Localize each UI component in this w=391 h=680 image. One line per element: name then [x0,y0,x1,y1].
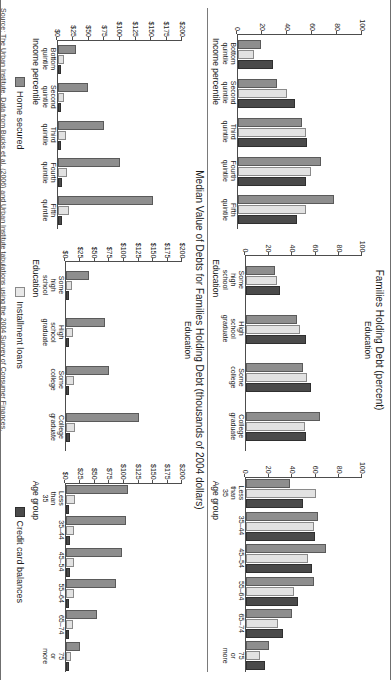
bar-credit-card-balances [238,99,295,108]
x-axis-labels-holding-education: SomehighschoolHighschoolgraduateSomecoll… [221,255,245,450]
x-axis-title-median-age: Age group [31,451,41,672]
source-note: Source: The Urban Institute. Data from B… [0,8,8,672]
bar-group [246,478,362,510]
bar-installment-loans [66,620,73,629]
plot-area-median-education: $0$25$50$75$100$125$150$175$200 [65,229,182,450]
bar-installment-loans [246,651,260,660]
bar-installment-loans [66,558,74,567]
bar-home-secured [246,412,320,421]
bar-group [246,640,362,672]
bars-container-holding-education [245,255,362,450]
y-tick-label: 20 [265,245,272,253]
bar-credit-card-balances [66,291,69,300]
panel-subtitle-holding-education: Education [363,229,373,450]
y-tick-label: $50 [91,468,98,480]
bar-installment-loans [246,373,307,382]
y-tick-label: 20 [259,23,266,31]
bar-installment-loans [246,422,305,431]
bar-credit-card-balances [246,499,303,508]
y-tick-label: $150 [149,243,156,259]
bar-home-secured [238,118,302,127]
bar-home-secured [66,642,80,651]
x-axis-labels-median-income: BottomquintileSecondquintileThirdquintil… [41,40,57,229]
bar-installment-loans [66,526,74,535]
x-tick-label: Fifthquintile [221,190,237,229]
bar-installment-loans [66,328,73,337]
bar-installment-loans [58,55,64,64]
x-tick-label: Lessthan35 [41,483,65,515]
legend-item-installment_loans: Installment loans [15,287,25,369]
y-tick-label: $25 [76,468,83,480]
bar-installment-loans [66,423,75,432]
y-tick-label: $50 [85,25,92,37]
panel-subtitle-median-income [183,8,193,229]
bar-credit-card-balances [66,568,70,577]
panel-subtitle-median-education: Education [183,229,193,450]
y-tick-label: $175 [164,464,171,480]
x-axis-labels-holding-income: BottomquintileSecondquintileThirdquintil… [221,34,237,229]
x-tick-label: 45–54 [221,542,245,575]
bar-credit-card-balances [58,216,62,225]
bar-group [66,484,182,515]
x-axis-labels-median-education: SomehighschoolHighschoolgraduateSomecoll… [41,261,65,450]
bar-credit-card-balances [246,532,315,541]
x-tick-label: 45–54 [41,546,65,578]
bar-installment-loans [66,376,74,385]
bar-group [238,113,362,152]
y-tick-label: $150 [147,21,154,37]
x-tick-label: Fourthquintile [221,151,237,190]
bar-credit-card-balances [246,564,312,573]
bar-installment-loans [246,276,277,285]
legend-item-credit_card_balances: Credit card balances [15,507,25,604]
bar-group [238,152,362,191]
bar-group [246,305,362,354]
x-axis-title-median-education: Education [31,229,41,450]
x-axis-title-holding-income: Income percentile [211,8,221,229]
bar-credit-card-balances [66,599,69,608]
x-tick-label: Secondquintile [221,73,237,112]
x-tick-label: Somehighschool [41,261,65,308]
bar-installment-loans [238,50,254,59]
bar-group [246,510,362,542]
bar-installment-loans [66,652,71,661]
bar-group [66,515,182,546]
panel-subtitle-holding-age [363,451,373,672]
bar-group [238,35,362,74]
bar-home-secured [246,609,292,618]
x-tick-label: 55–64 [221,574,245,607]
y-tick-label: $0 [54,29,61,37]
bar-installment-loans [246,554,308,563]
x-tick-label: Collegegraduate [221,402,245,451]
legend-item-home_secured: Home secured [15,77,25,150]
bar-home-secured [66,548,122,557]
bar-credit-card-balances [66,662,69,671]
bar-group [66,641,182,672]
bar-home-secured [66,579,116,588]
y-tick-label: $25 [76,247,83,259]
y-tick-label: 100 [359,19,366,31]
bar-installment-loans [238,167,311,176]
bar-installment-loans [246,489,316,498]
bar-group [246,256,362,305]
bar-installment-loans [238,205,306,214]
y-axis-median-income: $0$25$50$75$100$125$150$175$200 [57,8,182,40]
axis-titles-row-1: Income percentileEducationAge group [211,8,221,672]
x-tick-label: Lessthan35 [221,477,245,510]
bar-group [66,609,182,640]
panel-row-holding-debt: 020406080100BottomquintileSecondquintile… [221,8,373,672]
x-tick-label: 75ormore [41,640,65,672]
bar-home-secured [58,83,88,92]
y-tick-label: 20 [265,466,272,474]
bar-home-secured [246,479,290,488]
chart-panel-holding-education: Education020406080100SomehighschoolHighs… [221,229,373,450]
row-divider [207,8,208,672]
bar-credit-card-balances [238,138,307,147]
bar-home-secured [58,45,76,54]
y-tick-label: $200 [179,21,186,37]
bar-home-secured [66,610,97,619]
chart-title-holding-debt: Families Holding Debt (percent) [373,8,385,672]
y-tick-label: 100 [359,462,366,474]
bar-credit-card-balances [66,386,69,395]
x-axis-labels-median-age: Lessthan3535–4445–5455–6465–7475ormore [41,483,65,672]
y-axis-median-age: $0$25$50$75$100$125$150$175$200 [65,451,182,483]
